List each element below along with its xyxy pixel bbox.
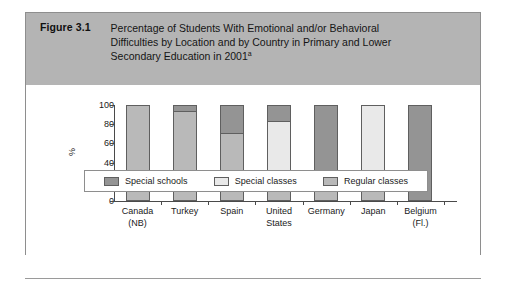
legend-label: Regular classes — [344, 176, 408, 186]
figure-title-line-1: Percentage of Students With Emotional an… — [111, 22, 380, 34]
figure-box: Figure 3.1 Percentage of Students With E… — [25, 12, 481, 255]
figure-title: Percentage of Students With Emotional an… — [91, 13, 480, 64]
x-axis-tick-mark — [303, 201, 304, 205]
y-axis-tick-mark — [110, 143, 114, 144]
legend-item[interactable]: Special classes — [214, 176, 297, 186]
x-axis-category-label: Belgium(Fl.) — [383, 206, 457, 229]
legend-swatch-icon — [323, 177, 338, 186]
legend-label: Special classes — [235, 176, 297, 186]
bottom-divider — [25, 278, 481, 279]
x-axis-category-label-line2: (Fl.) — [383, 218, 457, 230]
y-axis-label: % — [67, 148, 77, 156]
y-axis-tick-mark — [110, 201, 114, 202]
x-axis-line — [114, 201, 457, 202]
x-axis-category-label-line2: (NB) — [101, 218, 175, 230]
x-axis-category-label-line1: Belgium — [383, 206, 457, 218]
figure-number: Figure 3.1 — [26, 13, 91, 33]
figure-page: Figure 3.1 Percentage of Students With E… — [0, 0, 505, 292]
x-axis-tick-mark — [397, 201, 398, 205]
legend-item[interactable]: Special schools — [104, 176, 188, 186]
figure-title-line-2: Difficulties by Location and by Country … — [111, 36, 392, 48]
y-axis-tick-mark — [110, 105, 114, 106]
x-axis-category-label-line2: States — [242, 218, 316, 230]
figure-title-line-3: Secondary Education in 2001 — [111, 50, 248, 62]
bar-segment — [315, 106, 337, 175]
bar-segment — [268, 106, 290, 122]
bar-segment — [268, 122, 290, 175]
legend-item[interactable]: Regular classes — [323, 176, 408, 186]
legend-swatch-icon — [214, 177, 229, 186]
x-axis-tick-mark — [444, 201, 445, 205]
figure-title-footnote-marker: a — [248, 50, 252, 57]
chart-legend: Special schoolsSpecial classesRegular cl… — [84, 170, 428, 192]
figure-header: Figure 3.1 Percentage of Students With E… — [26, 13, 480, 85]
legend-label: Special schools — [125, 176, 188, 186]
x-axis-tick-mark — [208, 201, 209, 205]
x-axis-tick-mark — [350, 201, 351, 205]
y-axis-tick-mark — [110, 163, 114, 164]
legend-swatch-icon — [104, 177, 119, 186]
x-axis-tick-mark — [255, 201, 256, 205]
x-axis-tick-mark — [161, 201, 162, 205]
y-axis-tick-mark — [110, 124, 114, 125]
bar-segment — [221, 106, 243, 134]
